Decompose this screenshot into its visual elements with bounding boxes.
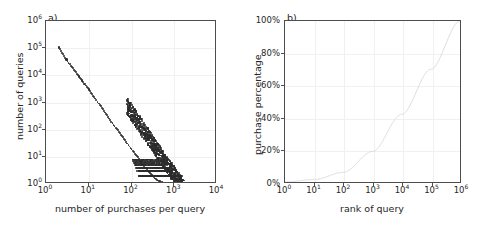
scatter-point xyxy=(120,134,122,136)
scatter-point xyxy=(165,182,167,183)
scatter-point xyxy=(153,137,155,139)
panel-b-xtick-6: 106 xyxy=(454,186,469,195)
panel-b-cumulative-curve xyxy=(285,21,460,182)
scatter-point xyxy=(181,182,183,183)
panel-a-xtick-3: 103 xyxy=(166,186,181,195)
scatter-point xyxy=(176,182,178,183)
scatter-point xyxy=(138,122,140,124)
scatter-point xyxy=(143,128,145,130)
scatter-point xyxy=(151,135,153,137)
scatter-point xyxy=(149,145,151,147)
panel-a-x-axis-title: number of purchases per query xyxy=(55,203,205,214)
panel-a-plot-area xyxy=(45,20,216,183)
scatter-point xyxy=(182,182,184,183)
scatter-point xyxy=(131,104,133,106)
panel-a-xtick-4: 104 xyxy=(209,186,224,195)
scatter-point xyxy=(157,148,159,150)
scatter-point xyxy=(161,151,163,153)
panel-a-xtick-0: 100 xyxy=(38,186,53,195)
scatter-point xyxy=(134,115,136,117)
scatter-point xyxy=(90,92,92,94)
panel-b-x-axis-title: rank of query xyxy=(340,203,404,214)
panel-a-gridline-h-1 xyxy=(46,157,215,158)
scatter-point xyxy=(160,160,162,162)
panel-a-xtickmark-1 xyxy=(88,183,89,187)
scatter-point xyxy=(103,110,105,112)
scatter-point xyxy=(171,176,173,178)
scatter-point xyxy=(133,151,135,153)
panel-a-gridline-h-5 xyxy=(46,48,215,49)
scatter-point xyxy=(115,127,117,129)
panel-b-xtick-0: 100 xyxy=(277,186,292,195)
panel-b-ytick-3: 60% xyxy=(261,81,280,90)
panel-b-plot-area xyxy=(284,20,461,183)
panel-a-ytick-6: 106 xyxy=(27,16,42,25)
panel-b-ytick-5: 100% xyxy=(256,16,280,25)
panel-a-xtick-2: 102 xyxy=(123,186,138,195)
panel-a-xtickmark-2 xyxy=(131,183,132,187)
panel-a-ytick-5: 105 xyxy=(27,43,42,52)
panel-a-gridline-v-3 xyxy=(174,21,175,182)
panel-a-gridline-h-2 xyxy=(46,130,215,131)
panel-a-y-axis-title: number of queries xyxy=(14,52,25,140)
panel-a-xtick-1: 101 xyxy=(80,186,95,195)
scatter-point xyxy=(131,107,133,109)
scatter-point xyxy=(141,120,143,122)
panel-b-xtick-4: 104 xyxy=(395,186,410,195)
panel-a-ytick-2: 102 xyxy=(27,124,42,133)
panel-b-xtickmark-5 xyxy=(432,183,433,187)
scatter-point xyxy=(164,182,166,183)
scatter-point xyxy=(147,128,149,130)
scatter-point xyxy=(162,166,164,168)
figure-two-panel-log-plots: a) number of queries number of purchases… xyxy=(0,0,484,226)
panel-a-gridline-h-4 xyxy=(46,75,215,76)
panel-b-xtick-5: 105 xyxy=(424,186,439,195)
scatter-point xyxy=(128,107,130,109)
scatter-point xyxy=(166,182,168,183)
scatter-point xyxy=(123,138,125,140)
panel-b-ytick-4: 80% xyxy=(261,48,280,57)
panel-a-gridline-v-2 xyxy=(132,21,133,182)
panel-a-xtickmark-3 xyxy=(173,183,174,187)
panel-a: a) number of queries number of purchases… xyxy=(0,0,242,226)
scatter-point xyxy=(153,147,155,149)
panel-a-ytick-3: 103 xyxy=(27,97,42,106)
scatter-point xyxy=(159,147,161,149)
panel-b-xtick-3: 103 xyxy=(365,186,380,195)
panel-a-ytick-1: 101 xyxy=(27,152,42,161)
panel-b-xtickmark-2 xyxy=(343,183,344,187)
scatter-point xyxy=(183,182,185,183)
panel-a-gridline-v-1 xyxy=(89,21,90,182)
panel-a-ytick-4: 104 xyxy=(27,70,42,79)
scatter-point xyxy=(164,167,166,169)
panel-b-xtick-1: 101 xyxy=(306,186,321,195)
panel-b: b) purchase percentage rank of query 0% … xyxy=(242,0,484,226)
panel-b-xtickmark-1 xyxy=(314,183,315,187)
scatter-point xyxy=(157,143,159,145)
scatter-point xyxy=(130,115,132,117)
scatter-point xyxy=(142,132,144,134)
panel-b-xtickmark-4 xyxy=(402,183,403,187)
scatter-point xyxy=(155,140,157,142)
scatter-point xyxy=(182,182,184,183)
scatter-point xyxy=(175,182,177,183)
scatter-point xyxy=(133,108,135,110)
scatter-point xyxy=(74,70,76,72)
scatter-point xyxy=(136,155,138,157)
scatter-point xyxy=(125,141,127,143)
panel-b-ytick-1: 20% xyxy=(261,146,280,155)
scatter-point xyxy=(184,182,186,183)
scatter-point xyxy=(93,96,95,98)
panel-b-xtickmark-3 xyxy=(373,183,374,187)
panel-b-xtick-2: 102 xyxy=(336,186,351,195)
panel-b-y-axis-title: purchase percentage xyxy=(252,54,263,155)
panel-b-ytick-2: 40% xyxy=(261,114,280,123)
scatter-point xyxy=(179,182,181,183)
scatter-point xyxy=(170,166,172,168)
scatter-point xyxy=(132,118,134,120)
scatter-point xyxy=(70,65,72,67)
scatter-point xyxy=(145,128,147,130)
